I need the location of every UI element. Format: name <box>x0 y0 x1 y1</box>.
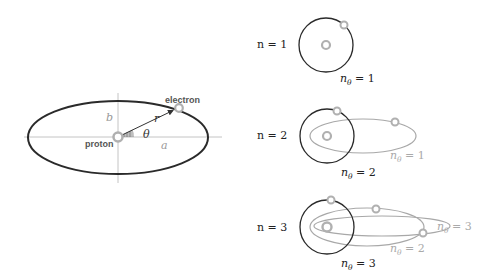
n2-label: n = 2 <box>257 129 287 142</box>
svg-text:θ: θ <box>397 155 402 164</box>
proton-particle <box>114 133 123 142</box>
svg-text:θ: θ <box>397 248 402 257</box>
electron-label: electron <box>165 95 200 105</box>
n1-label: n = 1 <box>257 38 287 51</box>
electron <box>341 22 348 29</box>
b-semiminor-label: b <box>106 111 113 124</box>
svg-text:= 3: = 3 <box>452 220 472 233</box>
ntheta-label-n3-mid: n θ = 2 <box>390 242 425 257</box>
nucleus <box>323 132 331 140</box>
a-semimajor-label: a <box>161 139 168 152</box>
svg-text:= 3: = 3 <box>356 257 376 270</box>
electron <box>373 206 380 213</box>
electron <box>420 230 427 237</box>
svg-text:θ: θ <box>348 263 353 272</box>
svg-text:= 1: = 1 <box>355 72 375 85</box>
elliptical-orbit-n3-outer <box>314 216 450 236</box>
ntheta-label-n2-ellipse: n θ = 1 <box>390 149 425 164</box>
n3-label: n = 3 <box>257 221 287 234</box>
orbit-row-n3: n = 3 n θ = 3 n θ = 2 n θ = 3 <box>257 197 472 273</box>
electron <box>334 108 341 115</box>
ntheta-label-n1: n θ = 1 <box>340 72 375 87</box>
electron-particle <box>175 104 183 112</box>
svg-text:= 1: = 1 <box>405 149 425 162</box>
svg-text:= 2: = 2 <box>356 166 376 179</box>
ntheta-label-n2-circle: n θ = 2 <box>341 166 376 181</box>
orbit-row-n1: n = 1 n θ = 1 <box>257 18 375 87</box>
bohr-sommerfeld-diagram: electron proton r θ a b n = 1 n θ = 1 n … <box>0 0 485 274</box>
nucleus <box>323 223 332 232</box>
svg-text:θ: θ <box>348 172 353 181</box>
svg-text:θ: θ <box>347 78 352 87</box>
svg-text:θ: θ <box>444 226 449 235</box>
ntheta-label-n3-circle: n θ = 3 <box>341 257 376 272</box>
electron <box>328 197 335 204</box>
electron <box>392 119 399 126</box>
proton-label: proton <box>85 139 114 149</box>
nucleus <box>322 41 330 49</box>
ntheta-label-n3-outer: n θ = 3 <box>437 220 472 235</box>
r-label: r <box>154 112 160 125</box>
orbit-row-n2: n = 2 n θ = 1 n θ = 2 <box>257 108 425 182</box>
svg-text:= 2: = 2 <box>405 242 425 255</box>
theta-label: θ <box>143 128 150 141</box>
elliptical-orbit-panel: electron proton r θ a b <box>24 93 222 183</box>
